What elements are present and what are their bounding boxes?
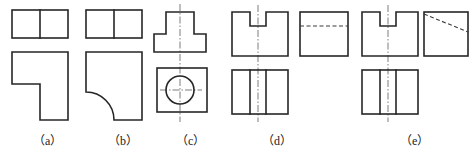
problem-e-top-view-notched-rect [362, 12, 418, 56]
problem-a-group [12, 10, 68, 120]
figure-label-c: （c） [176, 131, 205, 149]
problem-e-group [362, 5, 468, 122]
figure-label-d: （d） [262, 131, 292, 149]
problem-d-front-view-rect [232, 70, 288, 114]
problem-b-front-view-filleted-shape [86, 52, 142, 120]
problem-d-group [232, 5, 348, 122]
drawing-sheet: （a） （b） （c） （d） （e） [0, 0, 473, 154]
problem-b-group [86, 10, 142, 120]
problem-a-front-view-l-shape [12, 52, 68, 120]
problem-e-side-view-rect [424, 12, 468, 56]
problem-e-front-view-rect [362, 70, 418, 114]
problem-c-group [154, 4, 207, 122]
figure-label-a: （a） [33, 131, 62, 149]
problem-e-side-view-diagonal-hidden-line [424, 14, 468, 32]
problem-d-side-view-rect [300, 12, 348, 56]
problem-d-top-view-notched-rect [232, 12, 288, 56]
figure-label-e: （e） [400, 131, 429, 149]
figure-label-b: （b） [108, 131, 138, 149]
